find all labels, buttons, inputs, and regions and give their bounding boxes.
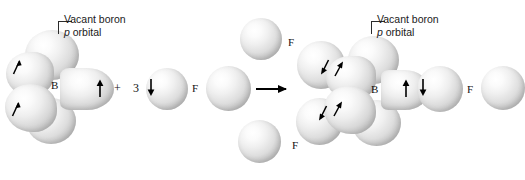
electron-spin-arrow-down-bond-upper-left: [316, 58, 330, 74]
atom-label-fluorine-product-right: F: [467, 83, 473, 95]
electron-spin-arrow-up-bond-upper-left: [331, 60, 345, 76]
atom-label-fluorine-product-top: F: [288, 36, 294, 48]
atom-label-boron-right: B: [371, 83, 378, 95]
atom-label-fluorine-product-bottom: F: [292, 139, 298, 151]
reaction-arrow: [256, 88, 286, 90]
fluorine-product-sphere-right: [481, 66, 525, 110]
callout-right-line1: Vacant boron: [377, 13, 439, 25]
callout-left-line2-rest: orbital: [70, 26, 102, 38]
electron-spin-arrow-up-lobe-lower-left: [7, 100, 21, 116]
electron-spin-arrow-down-bond-right: [417, 78, 431, 94]
operator-coefficient-three: 3: [133, 81, 139, 96]
fluorine-product-sphere-bottom: [238, 120, 281, 163]
callout-label-right: Vacant boron p orbital: [377, 13, 439, 38]
electron-spin-arrow-up-lobe-upper-left: [8, 58, 22, 74]
atom-label-fluorine-reactant: F: [192, 82, 198, 94]
atom-label-boron-left: B: [51, 79, 58, 91]
callout-right-line2-rest: orbital: [383, 26, 415, 38]
electron-spin-arrow-down-bond-lower-left: [314, 104, 328, 120]
electron-spin-arrow-up-bond-lower-left: [330, 100, 344, 116]
fluorine-product-sphere-top: [240, 18, 282, 60]
electron-spin-arrow-down-fluorine-reactant: [145, 78, 159, 94]
callout-left-line1: Vacant boron: [64, 13, 126, 25]
electron-spin-arrow-up-bond-right: [400, 78, 414, 94]
operator-plus: +: [114, 81, 121, 96]
electron-spin-arrow-up-lobe-right: [94, 78, 108, 94]
fluorine-reactant-sphere-2: [206, 66, 251, 111]
callout-label-left: Vacant boron p orbital: [64, 13, 126, 38]
